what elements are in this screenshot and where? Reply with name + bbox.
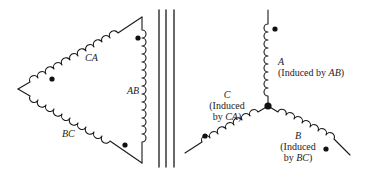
polarity-dot-c xyxy=(202,133,207,138)
wye-winding-a xyxy=(264,10,268,106)
transformer-diagram: CA AB BC A (Induced by AB) C (Induced by… xyxy=(0,0,365,177)
label-b-induced-line1: (Induced xyxy=(275,141,321,152)
label-c-group: C (Induced by CA) xyxy=(204,89,250,122)
label-a-group: A (Induced by AB) xyxy=(278,56,344,78)
delta-winding-bc xyxy=(18,89,142,163)
label-a: A xyxy=(278,56,344,67)
label-b: B xyxy=(275,130,321,141)
polarity-dot-ab xyxy=(135,35,140,40)
polarity-dot-ca xyxy=(49,76,54,81)
label-c-induced-line2: by CA) xyxy=(204,111,250,122)
wye-neutral-node xyxy=(264,102,271,109)
transformer-core xyxy=(159,10,174,167)
polarity-dot-b xyxy=(323,146,328,151)
polarity-dot-bc xyxy=(122,142,127,147)
delta-winding-ab xyxy=(142,17,146,163)
polarity-dot-a xyxy=(272,26,277,31)
label-a-induced: (Induced by AB) xyxy=(278,67,344,78)
label-ca: CA xyxy=(85,52,98,63)
delta-winding-ca xyxy=(18,17,142,89)
label-b-group: B (Induced by BC) xyxy=(275,130,321,163)
label-bc: BC xyxy=(62,128,75,139)
label-b-induced-line2: by BC) xyxy=(275,152,321,163)
label-c: C xyxy=(204,89,250,100)
label-c-induced-line1: (Induced xyxy=(204,100,250,111)
label-ab: AB xyxy=(127,85,139,96)
